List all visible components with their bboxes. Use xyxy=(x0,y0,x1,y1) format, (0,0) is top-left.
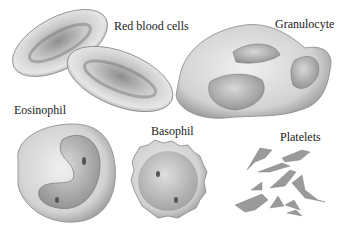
platelets xyxy=(235,148,325,216)
label-red-blood-cells: Red blood cells xyxy=(114,19,189,34)
granulocyte-cell xyxy=(176,25,331,119)
label-granulocyte: Granulocyte xyxy=(275,17,334,32)
eosinophil-cell xyxy=(18,124,116,222)
label-basophil: Basophil xyxy=(151,124,194,139)
label-eosinophil: Eosinophil xyxy=(14,103,66,118)
blood-cells-illustration xyxy=(0,0,350,246)
label-platelets: Platelets xyxy=(280,130,321,145)
basophil-cell xyxy=(131,140,207,218)
